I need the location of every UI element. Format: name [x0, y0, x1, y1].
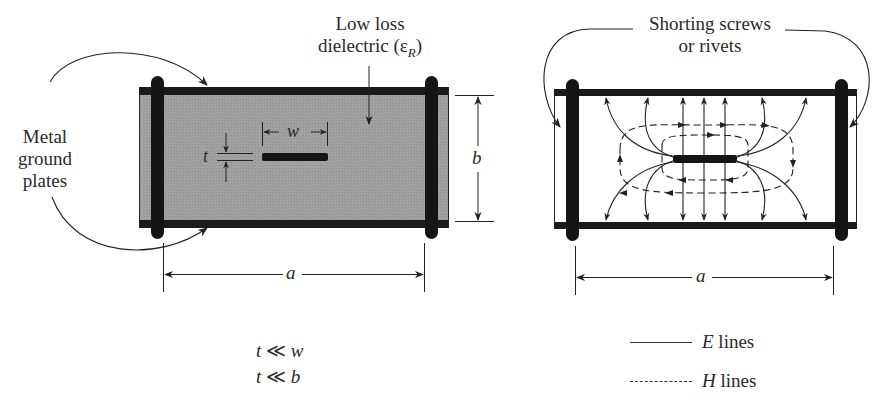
epsilon-subscript: R [408, 45, 416, 60]
right-screw [425, 76, 438, 239]
legend-text: lines [720, 370, 756, 391]
condition-rhs: w [291, 340, 304, 361]
bottom-ground-plate [554, 222, 857, 229]
left-screw [566, 79, 579, 241]
legend-h-lines: H lines [630, 370, 756, 392]
condition-rhs: b [291, 366, 301, 387]
solid-line-swatch [630, 342, 692, 343]
screws-line2: or rivets [630, 35, 790, 57]
screws-line1: Shorting screws [630, 13, 790, 35]
ground-plates-line2: ground [2, 148, 88, 170]
bottom-ground-plate [139, 220, 449, 228]
legend-text: lines [718, 331, 754, 352]
stripline-figure: Metal ground plates Low loss dielectric … [0, 0, 879, 406]
condition-lhs: t [256, 366, 261, 387]
left-stripline [50, 53, 494, 292]
left-screw [151, 76, 164, 239]
shorting-screws-label: Shorting screws or rivets [630, 13, 790, 57]
condition-lhs: t [256, 340, 261, 361]
top-ground-plate [139, 87, 449, 95]
condition-t-b: t ≪ b [256, 366, 300, 388]
ground-plates-line3: plates [2, 170, 88, 192]
top-ground-plate [554, 89, 857, 96]
center-strip [673, 155, 737, 163]
condition-t-w: t ≪ w [256, 340, 303, 362]
ground-plates-label: Metal ground plates [2, 126, 88, 192]
dielectric-label: Low loss dielectric (εR) [300, 13, 440, 64]
dielectric-text: dielectric ( [318, 35, 400, 56]
epsilon-symbol: ε [400, 35, 408, 56]
a-dimension-label-right: a [696, 265, 706, 287]
legend-symbol: H [702, 370, 716, 391]
right-screw [835, 79, 848, 241]
legend-symbol: E [702, 331, 714, 352]
dielectric-close-paren: ) [416, 35, 422, 56]
dielectric-line1: Low loss [300, 13, 440, 35]
dashed-line-swatch [630, 381, 692, 382]
dielectric-line2: dielectric (εR) [300, 35, 440, 64]
a-dimension-label-left: a [286, 262, 296, 284]
ground-plates-line1: Metal [2, 126, 88, 148]
condition-op: ≪ [266, 366, 286, 387]
legend-e-lines: E lines [630, 331, 754, 353]
w-dimension-label: w [287, 120, 299, 142]
b-dimension-label: b [472, 147, 482, 169]
right-stripline-fields [544, 29, 869, 295]
center-strip [262, 153, 328, 161]
t-dimension-label: t [203, 145, 208, 167]
condition-op: ≪ [266, 340, 286, 361]
